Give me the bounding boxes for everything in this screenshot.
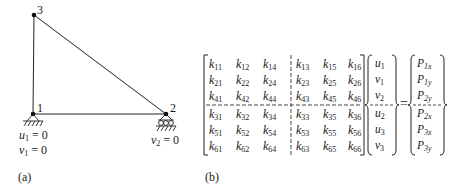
panel-a-caption: (a) — [18, 170, 31, 185]
matrix-cell: k25 — [323, 73, 336, 88]
vector-entry: P2y — [417, 89, 432, 103]
matrix-cell: k65 — [323, 139, 336, 154]
node-3 — [32, 13, 37, 18]
vector-entry: v2 — [375, 89, 384, 103]
vector-entry: v1 — [375, 73, 384, 87]
matrix-cell: k56 — [348, 123, 361, 138]
matrix-cell: k24 — [263, 73, 276, 88]
matrix-cell: k64 — [263, 139, 276, 154]
matrix-cell: k35 — [323, 107, 336, 122]
matrix-cell: k34 — [263, 107, 276, 122]
matrix-cell: k32 — [236, 107, 249, 122]
matrix-cell: k42 — [236, 89, 249, 104]
matrix-cell: k51 — [209, 123, 222, 138]
matrix-cell: k44 — [263, 89, 276, 104]
vector-entry: P2x — [417, 107, 432, 121]
equals-sign: = — [400, 96, 408, 112]
constraint-v2: v2 = 0 — [151, 133, 179, 148]
matrix-cell: k63 — [296, 139, 309, 154]
matrix-cell: k16 — [348, 57, 361, 72]
constraint-u1: u1 = 0 — [19, 128, 48, 143]
matrix-cell: k13 — [296, 57, 309, 72]
matrix-cell: k45 — [323, 89, 336, 104]
matrix-cell: k21 — [209, 73, 222, 88]
matrix-cell: k66 — [348, 139, 361, 154]
truss-diagram — [0, 0, 200, 189]
vector-entry: v3 — [375, 139, 384, 153]
matrix-cell: k23 — [296, 73, 309, 88]
panel-b-caption: (b) — [205, 170, 219, 185]
node-3-label: 3 — [37, 3, 43, 18]
matrix-cell: k31 — [209, 107, 222, 122]
member-2-3 — [34, 15, 166, 114]
matrix-cell: k55 — [323, 123, 336, 138]
roller-support-icon — [156, 114, 176, 131]
vector-entry: P3y — [417, 139, 432, 153]
matrix-cell: k43 — [296, 89, 309, 104]
node-2-label: 2 — [170, 101, 176, 116]
node-1-label: 1 — [37, 101, 43, 116]
matrix-cell: k54 — [263, 123, 276, 138]
constraint-v1: v1 = 0 — [19, 143, 47, 158]
matrix-cell: k12 — [236, 57, 249, 72]
matrix-cell: k62 — [236, 139, 249, 154]
vector-entry: u1 — [375, 57, 385, 71]
matrix-cell: k46 — [348, 89, 361, 104]
matrix-cell: k53 — [296, 123, 309, 138]
vector-entry: u2 — [375, 107, 385, 121]
matrix-cell: k41 — [209, 89, 222, 104]
member-1-3 — [33, 15, 34, 114]
vector-entry: P1y — [417, 73, 432, 87]
matrix-cell: k22 — [236, 73, 249, 88]
matrix-cell: k14 — [263, 57, 276, 72]
matrix-cell: k11 — [209, 57, 222, 72]
matrix-cell: k61 — [209, 139, 222, 154]
vector-entry: u3 — [375, 123, 385, 137]
vector-entry: P3x — [417, 123, 432, 137]
vector-entry: P1x — [417, 57, 432, 71]
matrix-cell: k52 — [236, 123, 249, 138]
matrix-cell: k26 — [348, 73, 361, 88]
matrix-cell: k36 — [348, 107, 361, 122]
matrix-cell: k15 — [323, 57, 336, 72]
matrix-cell: k33 — [296, 107, 309, 122]
